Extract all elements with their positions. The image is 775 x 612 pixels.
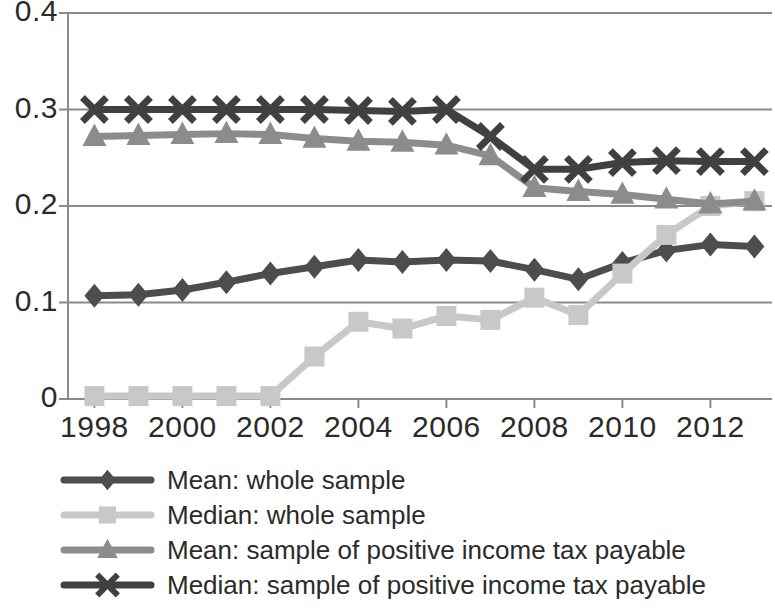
series-marker [436,248,456,272]
series-marker [216,386,236,406]
series-marker [744,235,764,259]
legend-item-label: Median: whole sample [167,500,426,530]
legend-item: Mean: sample of positive income tax paya… [60,532,775,567]
x-axis-tick-label: 2000 [137,412,227,442]
series-marker [612,264,632,284]
series-line [94,245,754,296]
series-marker [216,270,236,294]
x-axis-tick-label: 2006 [401,412,491,442]
series-marker [128,386,148,406]
chart-figure: 0.40.30.20.10 19982000200220042006200820… [0,0,775,612]
legend-item: Median: whole sample [60,497,775,532]
series-marker [304,255,324,279]
legend-marker-cross-x-icon [60,569,155,601]
series-marker [84,284,104,308]
legend-item: Mean: whole sample [60,462,775,497]
x-axis-tick-label: 2010 [577,412,667,442]
legend-item-label: Median: sample of positive income tax pa… [167,570,706,600]
x-axis-tick-label: 2008 [489,412,579,442]
series-marker [480,249,500,273]
series-marker [260,262,280,286]
chart-legend: Mean: whole sampleMedian: whole sampleMe… [60,462,775,602]
series-marker [348,248,368,272]
x-axis-tick-label: 2012 [665,412,755,442]
series-marker [436,306,456,326]
x-axis-tick-label: 1998 [49,412,139,442]
series-marker [568,267,588,291]
series-marker [524,288,544,308]
legend-item-label: Mean: sample of positive income tax paya… [167,535,686,565]
legend-marker-diamond-icon [60,464,155,496]
legend-item-label: Mean: whole sample [167,465,405,495]
series-marker [656,225,676,245]
x-axis-tick-label: 2004 [313,412,403,442]
series-marker [172,278,192,302]
series-line [94,201,754,396]
series-marker [84,386,104,406]
y-axis-tick-label: 0.1 [0,286,58,316]
series-marker [700,233,720,257]
y-axis-tick-label: 0.3 [0,93,58,123]
series-marker [480,310,500,330]
legend-item: Median: sample of positive income tax pa… [60,567,775,602]
x-axis-tick-label: 2002 [225,412,315,442]
series-marker [392,319,412,339]
series-marker [568,305,588,325]
series-marker [304,347,324,367]
legend-marker-square-icon [60,499,155,531]
y-axis-ticks [59,13,68,399]
data-series [84,191,764,406]
series-marker [260,386,280,406]
series-marker [172,386,192,406]
legend-marker-triangle-icon [60,534,155,566]
y-axis-tick-label: 0.2 [0,189,58,219]
series-marker [524,258,544,282]
y-axis-tick-label: 0.4 [0,0,58,26]
data-series-layer [82,98,766,407]
y-axis-tick-label: 0 [0,382,58,412]
series-marker [392,250,412,274]
series-marker [348,312,368,332]
